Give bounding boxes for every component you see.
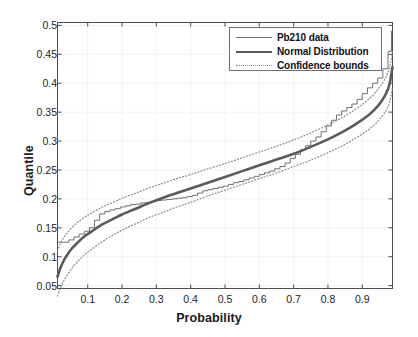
chart-legend: Pb210 data Normal Distribution Confidenc… (229, 27, 382, 71)
y-tick-label: 0.5 (42, 19, 57, 31)
x-axis-title: Probability (0, 311, 418, 325)
y-tick-label: 0.35 (37, 106, 57, 118)
y-tick-label: 0.25 (37, 164, 57, 176)
qq-plot-figure: 0.10.20.30.40.50.60.70.80.9 0.050.10.150… (0, 0, 418, 337)
y-tick-label: 0.3 (42, 135, 57, 147)
y-tick-label: 0.45 (37, 48, 57, 60)
x-tick-label: 0.1 (80, 293, 95, 305)
y-tick-label: 0.4 (42, 77, 57, 89)
legend-label: Normal Distribution (277, 46, 368, 57)
y-tick-label: 0.05 (37, 280, 57, 292)
dotted-line-sample (236, 59, 272, 71)
thin-line-sample (236, 31, 272, 43)
x-tick-label: 0.4 (183, 293, 198, 305)
x-tick-label: 0.8 (321, 293, 336, 305)
x-tick-label: 0.9 (355, 293, 370, 305)
x-tick-label: 0.2 (115, 293, 130, 305)
legend-item-pb210-data: Pb210 data (230, 30, 381, 44)
legend-label: Confidence bounds (277, 60, 369, 71)
y-tick-label: 0.15 (37, 222, 57, 234)
x-tick-label: 0.7 (286, 293, 301, 305)
y-tick-label: 0.2 (42, 193, 57, 205)
y-tick-label: 0.1 (42, 251, 57, 263)
x-tick-label: 0.5 (218, 293, 233, 305)
legend-item-confidence-bounds: Confidence bounds (230, 58, 381, 72)
x-tick-label: 0.3 (149, 293, 164, 305)
x-tick-label: 0.6 (252, 293, 267, 305)
y-axis-title: Quantile (22, 145, 36, 196)
legend-label: Pb210 data (277, 32, 329, 43)
thick-line-sample (236, 45, 272, 57)
legend-item-normal-distribution: Normal Distribution (230, 44, 381, 58)
